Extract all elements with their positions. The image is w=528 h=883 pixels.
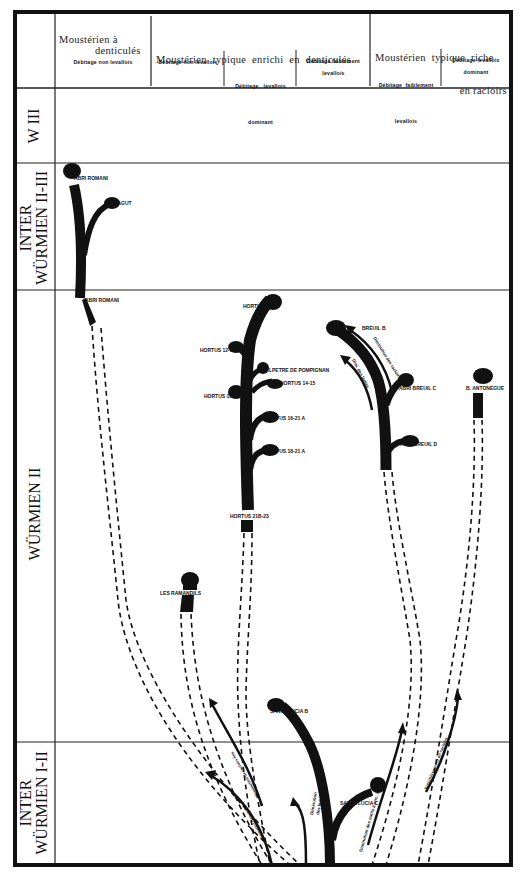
site-label: SANTA LUCIA B [270,708,309,714]
site-label: ABRI ROMANI [74,175,108,181]
branch-b-antonegue [473,368,493,418]
site-label: SALPETRE DE POMPIGNAN [262,367,330,373]
subcolumn-header: Débitage levallois dominant [442,54,510,78]
site-label: HORTUS 16-21 A [265,415,305,421]
lineage-dashed [101,328,300,865]
subcolumn-line: dominant [225,116,296,128]
period-label-w3: W III [26,88,44,164]
subcolumn-header: Débitage non levallois [56,56,150,68]
site-label: HORTUS 7-11 [243,303,275,309]
branch-hortus [228,294,283,532]
site-label: HORTUS 18-21 A [265,448,305,454]
site-label: HORTUS 12-17 [200,347,236,353]
period-line: INTER [18,168,34,288]
subcolumn-header: Débitage faiblement levallois [371,55,441,151]
subcolumn-line: levallois [297,67,370,79]
period-line: W III [25,109,42,144]
period-label-w2: WÜRMIEN II [27,444,45,584]
subcolumn-header: Débitage faiblement levallois [297,55,370,79]
phylogeny-diagram: ABRI ROMANI ABRI AGUT ABRI ROMANI HORTUS… [0,0,528,883]
lineage-dashed [372,472,411,865]
subcolumn-line: Débitage levallois [442,54,510,66]
lineage-dashed [386,472,421,865]
subcolumn-line: Débitage non levallois [152,56,224,68]
site-label: ABRI AGUT [104,200,132,206]
period-line: INTER [18,743,34,863]
annotation: Diminution de racloirs fins [229,750,259,797]
site-label: ABRI BREUIL D [400,441,438,447]
site-label: LES RAMANDILS [160,590,202,596]
subcolumn-line: dominant [442,66,510,78]
site-label: HORTUS 15-17 [204,393,240,399]
subcolumn-line: Débitage non levallois [56,56,150,68]
site-label: B. ANTONEGUE [466,385,505,391]
site-label: ABRI [330,325,343,331]
lineage-dashed [418,420,474,865]
period-line: WÜRMIEN II [26,468,43,561]
group-header-denticules: Moustérien à denticulés [59,34,149,56]
subcolumn-header: Débitage levallois dominant [225,56,296,152]
subcolumn-line: levallois [371,115,441,127]
site-label: HORTUS 14-15 [280,380,316,386]
subcolumn-line: Débitage levallois [225,80,296,92]
subcolumn-header: Débitage non levallois [152,56,224,68]
site-label: ABRI BREUIL C [399,385,437,391]
period-label-inter-2-3: INTER WÜRMIEN II-III [18,168,54,288]
lineage-dashed [428,420,482,865]
group-title-line: denticulés [59,45,149,56]
branch-abri-breuil [326,320,419,470]
period-line: WÜRMIEN II-III [34,168,50,288]
site-label: BREUIL B [362,325,386,331]
period-label-inter-1-2: INTER WÜRMIEN I-II [18,743,54,863]
subcolumn-line: Débitage faiblement [297,55,370,67]
group-title-line: Moustérien à [59,34,149,45]
period-line: WÜRMIEN I-II [34,743,50,863]
site-label: HORTUS 21B-23 [230,513,269,519]
site-label: ABRI ROMANI [85,297,119,303]
subcolumn-line: Débitage faiblement [371,79,441,91]
